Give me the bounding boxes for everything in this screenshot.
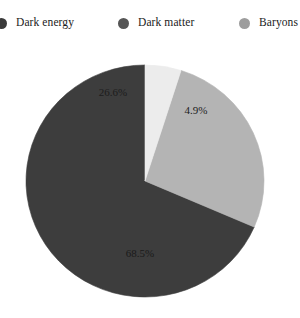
pie-chart: 26.6% 4.9% 68.5% — [0, 44, 300, 318]
circle-marker-icon — [118, 18, 129, 29]
circle-marker-icon — [239, 18, 250, 29]
legend-item-dark-energy[interactable]: Dark energy — [0, 14, 74, 32]
slice-label-dark-matter: 26.6% — [99, 86, 127, 98]
legend-label-baryons: Baryons — [259, 17, 298, 29]
slice-label-baryons: 4.9% — [185, 104, 208, 116]
pie-slice-group — [26, 65, 264, 297]
legend-item-baryons[interactable]: Baryons — [239, 14, 298, 32]
slice-label-dark-energy: 68.5% — [126, 247, 154, 259]
circle-marker-icon — [0, 18, 7, 29]
chart-legend: Dark energy Dark matter Baryons — [0, 0, 300, 44]
pie-chart-svg: 26.6% 4.9% 68.5% — [0, 44, 300, 318]
legend-label-dark-matter: Dark matter — [138, 17, 194, 29]
legend-label-dark-energy: Dark energy — [16, 17, 74, 29]
legend-item-dark-matter[interactable]: Dark matter — [118, 14, 194, 32]
